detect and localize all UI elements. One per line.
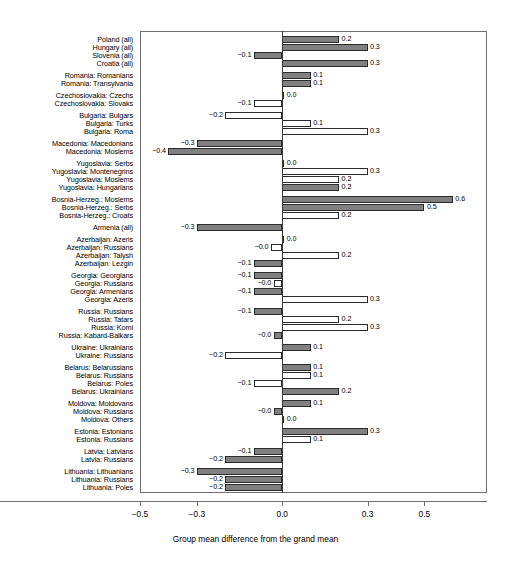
x-axis-tick [197, 501, 198, 506]
bar-value-label: 0.1 [313, 434, 323, 443]
chart-bar [254, 52, 282, 59]
category-label: Yugoslavia: Hungarians [0, 183, 133, 192]
category-label: Ukraine: Russians [0, 351, 133, 360]
bar-value-label: −0.1 [237, 446, 251, 455]
bar-chart-figure: Poland (all)Hungary (all)Slovenia (all)C… [0, 0, 511, 567]
bar-value-label: −0.4 [152, 146, 166, 155]
category-label: Latvia: Russians [0, 455, 133, 464]
chart-bar [225, 352, 282, 359]
bar-value-label: 0.3 [370, 58, 380, 67]
chart-bar [254, 448, 282, 455]
bar-value-label: −0.3 [181, 222, 195, 231]
category-label: Azerbaijan: Lezgin [0, 259, 133, 268]
bar-value-label: 0.3 [370, 42, 380, 51]
chart-bar-row: −0.1 [140, 259, 487, 268]
bar-value-label: −0.1 [237, 50, 251, 59]
chart-bar-row: 0.2 [140, 211, 487, 220]
chart-bar-row: −0.3 [140, 223, 487, 232]
x-axis-tick [424, 501, 425, 506]
category-label: Bulgaria: Roma [0, 127, 133, 136]
category-label: Croatia (all) [0, 59, 133, 68]
bar-value-label: −0.1 [237, 270, 251, 279]
chart-bar [197, 140, 282, 147]
category-label: Bosnia-Herzeg.: Croats [0, 211, 133, 220]
bar-value-label: 0.2 [342, 314, 352, 323]
x-axis-tick-label: −0.5 [120, 509, 160, 520]
chart-bar-row: −0.2 [140, 483, 487, 492]
chart-bar-row: 0.0 [140, 415, 487, 424]
chart-bar-row: 0.1 [140, 79, 487, 88]
chart-bar [254, 100, 282, 107]
chart-bar [225, 112, 282, 119]
chart-bar-row: −0.2 [140, 455, 487, 464]
chart-bar [282, 428, 367, 435]
bar-value-label: −0.0 [257, 330, 271, 339]
bar-value-label: 0.0 [287, 90, 297, 99]
bar-value-label: 0.5 [427, 202, 437, 211]
x-axis-line [0, 501, 487, 502]
x-axis-tick [282, 501, 283, 506]
chart-bar [271, 244, 282, 251]
bar-value-label: 0.1 [313, 342, 323, 351]
chart-bar-row: 0.3 [140, 295, 487, 304]
x-axis-tick [140, 501, 141, 506]
chart-bar [282, 184, 339, 191]
category-label: Estonia: Russians [0, 435, 133, 444]
bar-value-label: 0.1 [313, 398, 323, 407]
bar-value-label: 0.1 [313, 78, 323, 87]
bar-value-label: 0.3 [370, 166, 380, 175]
bar-value-label: 0.3 [370, 294, 380, 303]
bar-value-label: −0.1 [237, 286, 251, 295]
bar-value-label: −0.0 [255, 242, 269, 251]
chart-bar [282, 44, 367, 51]
x-axis-tick-label: 0.0 [262, 509, 302, 520]
x-axis-tick [368, 501, 369, 506]
bar-value-label: −0.0 [257, 278, 271, 287]
chart-bar [282, 316, 339, 323]
category-label: Russia: Kabard-Balkars [0, 331, 133, 340]
zero-reference-line [282, 31, 283, 493]
bar-value-label: −0.1 [237, 306, 251, 315]
chart-bar [282, 252, 339, 259]
bars-layer: 0.20.3−0.10.30.10.10.0−0.1−0.20.10.3−0.3… [140, 31, 487, 493]
chart-bar [168, 148, 282, 155]
chart-bar [254, 288, 282, 295]
bar-value-label: 0.2 [342, 34, 352, 43]
bar-value-label: 0.1 [313, 370, 323, 379]
chart-bar-row: −0.0 [140, 331, 487, 340]
chart-bar [225, 484, 282, 491]
category-label: Lithuania: Poles [0, 483, 133, 492]
chart-bar-row: −0.1 [140, 99, 487, 108]
chart-bar [282, 128, 367, 135]
x-axis-tick-label: 0.3 [348, 509, 388, 520]
x-axis-tick-label: −0.3 [177, 509, 217, 520]
chart-bar [197, 224, 282, 231]
chart-bar [225, 476, 282, 483]
bar-value-label: −0.2 [209, 110, 223, 119]
chart-bar [282, 72, 310, 79]
chart-bar [274, 280, 283, 287]
chart-bar [282, 60, 367, 67]
chart-bar [282, 364, 310, 371]
bar-value-label: 0.2 [342, 250, 352, 259]
chart-bar [282, 176, 339, 183]
category-label: Armenia (all) [0, 223, 133, 232]
chart-bar [282, 324, 367, 331]
x-axis-title: Group mean difference from the grand mea… [0, 534, 511, 544]
chart-bar [282, 204, 424, 211]
chart-bar [274, 332, 283, 339]
bar-value-label: −0.3 [181, 138, 195, 147]
chart-bar-row: −0.2 [140, 351, 487, 360]
bar-value-label: 0.3 [370, 322, 380, 331]
chart-bar [282, 436, 310, 443]
chart-bar [282, 372, 310, 379]
bar-value-label: 0.2 [342, 182, 352, 191]
chart-bar-row: −0.4 [140, 147, 487, 156]
bar-value-label: −0.2 [209, 482, 223, 491]
bar-value-label: −0.2 [209, 350, 223, 359]
chart-bar [254, 260, 282, 267]
chart-bar [282, 120, 310, 127]
bar-value-label: 0.2 [342, 210, 352, 219]
chart-bar [282, 36, 339, 43]
category-label: Georgia: Azeris [0, 295, 133, 304]
